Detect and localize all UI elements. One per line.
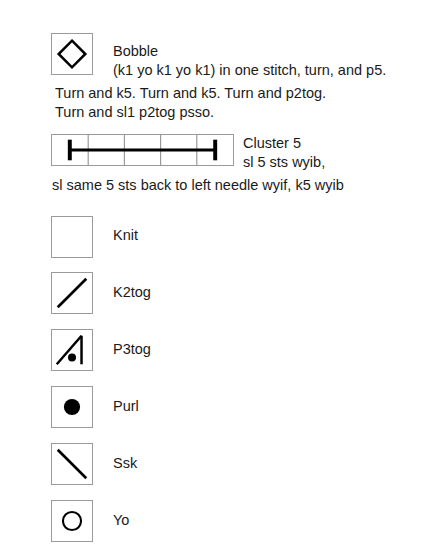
empty-square-icon xyxy=(52,217,92,257)
k2tog-label: K2tog xyxy=(113,283,151,302)
purl-symbol-box xyxy=(51,386,93,428)
bobble-description-line-1: (k1 yo k1 yo k1) in one stitch, turn, an… xyxy=(113,61,386,80)
p3tog-symbol-box xyxy=(51,329,93,371)
cluster5-description-line-1: sl 5 sts wyib, xyxy=(243,153,325,172)
cluster5-symbol-box xyxy=(51,134,234,166)
bobble-description-line-3: Turn and sl1 p2tog psso. xyxy=(55,103,214,122)
k2tog-symbol-box xyxy=(51,272,93,314)
bobble-description-line-2: Turn and k5. Turn and k5. Turn and p2tog… xyxy=(55,84,326,103)
filled-circle-icon xyxy=(52,387,92,427)
bobble-label: Bobble xyxy=(113,42,158,61)
diamond-outline-icon xyxy=(52,34,92,74)
forward-slash-icon xyxy=(52,273,92,313)
back-slash-icon xyxy=(52,444,92,484)
p3tog-label: P3tog xyxy=(113,340,151,359)
purl-label: Purl xyxy=(113,397,139,416)
diagonal-vertical-dot-icon xyxy=(52,330,92,370)
knit-symbol-box xyxy=(51,216,93,258)
cluster5-label: Cluster 5 xyxy=(243,134,301,153)
cluster5-description-line-2: sl same 5 sts back to left needle wyif, … xyxy=(52,176,344,195)
ssk-symbol-box xyxy=(51,443,93,485)
yo-label: Yo xyxy=(113,511,129,530)
yo-symbol-box xyxy=(51,500,93,542)
knit-label: Knit xyxy=(113,226,138,245)
cluster-five-ibeam-icon xyxy=(52,135,233,165)
open-circle-icon xyxy=(52,501,92,541)
ssk-label: Ssk xyxy=(113,454,137,473)
bobble-symbol-box xyxy=(51,33,93,75)
